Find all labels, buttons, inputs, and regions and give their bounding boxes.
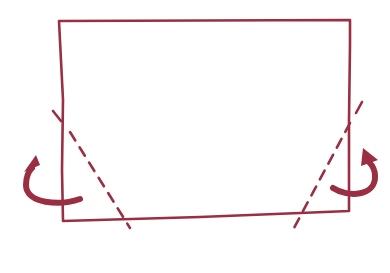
paper-outline xyxy=(59,20,350,221)
right-fold-arrow-icon xyxy=(333,148,378,194)
fold-diagram xyxy=(0,0,390,273)
left-fold-arrow-icon xyxy=(24,155,80,203)
left-valley-fold-line xyxy=(70,132,130,228)
left-fold-tick xyxy=(53,111,61,121)
right-fold-tick xyxy=(356,102,362,113)
